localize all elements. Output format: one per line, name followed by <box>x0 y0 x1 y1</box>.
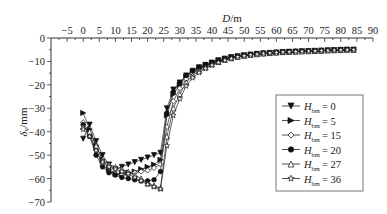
x-tick-label: 15 <box>126 25 137 36</box>
y-tick-label: −60 <box>29 174 45 185</box>
x-tick-label: 85 <box>352 25 363 36</box>
x-tick-label: 60 <box>271 25 282 36</box>
x-axis-title: D/m <box>221 12 242 24</box>
y-tick-label: −10 <box>29 56 45 67</box>
y-axis-title: δv/mm <box>17 107 31 136</box>
x-tick-label: 30 <box>175 25 186 36</box>
x-tick-label: 40 <box>207 25 218 36</box>
x-tick-label: 70 <box>303 25 314 36</box>
y-tick-label: −20 <box>29 80 45 91</box>
x-tick-label: 25 <box>158 25 169 36</box>
x-tick-label: 75 <box>319 25 330 36</box>
y-tick-label: −30 <box>29 103 45 114</box>
legend: Hbm= 0Hbm= 5Hbm= 15Hbm= 20Hbm= 27Hbm= 36 <box>276 95 363 191</box>
x-tick-label: 55 <box>255 25 266 36</box>
x-tick-label: −5 <box>62 25 73 36</box>
x-tick-label: 20 <box>142 25 153 36</box>
x-tick-label: 35 <box>191 25 202 36</box>
x-tick-label: 10 <box>110 25 121 36</box>
settlement-chart: −50510152025303540455055606570758085900−… <box>0 0 387 214</box>
y-tick-label: −40 <box>29 127 45 138</box>
x-tick-label: 45 <box>223 25 234 36</box>
y-tick-label: −50 <box>29 150 45 161</box>
x-tick-label: 80 <box>336 25 347 36</box>
x-tick-label: 50 <box>239 25 250 36</box>
x-tick-label: 90 <box>368 25 379 36</box>
x-tick-label: 0 <box>81 25 86 36</box>
x-tick-label: 65 <box>287 25 298 36</box>
y-tick-label: 0 <box>40 33 45 44</box>
x-tick-label: 5 <box>97 25 102 36</box>
y-tick-label: −70 <box>29 197 45 208</box>
